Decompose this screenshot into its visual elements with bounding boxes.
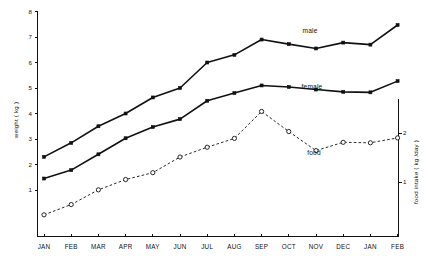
data-point (368, 141, 372, 145)
growth-and-food-intake-chart: 1 2 3 4 5 6 7 8 weight ( kg ) 2 1 food i… (0, 0, 425, 259)
data-point (232, 136, 236, 140)
data-point (342, 41, 345, 44)
x-tick-label-mar: MAR (91, 243, 106, 250)
data-point (70, 141, 73, 144)
x-tick-label-dec: DEC (336, 243, 350, 250)
x-tick-label-jan-1: JAN (38, 243, 51, 250)
data-point (151, 96, 154, 99)
data-point (179, 118, 182, 121)
series-label-male: male (302, 27, 317, 34)
data-point (287, 129, 291, 133)
data-point (205, 145, 209, 149)
data-point (69, 202, 73, 206)
data-point (43, 155, 46, 158)
data-point (341, 140, 345, 144)
data-point (369, 91, 372, 94)
x-tick-label-sep: SEP (255, 243, 268, 250)
data-point (206, 61, 209, 64)
data-point (43, 177, 46, 180)
data-point (97, 153, 100, 156)
data-point (124, 112, 127, 115)
x-tick-label-oct: OCT (282, 243, 296, 250)
x-tick-label-feb-1: FEB (65, 243, 78, 250)
x-tick-label-jul: JUL (201, 243, 213, 250)
data-point (178, 155, 182, 159)
y-tick-label-1: 1 (29, 186, 33, 193)
y-axis-title: weight ( kg ) (12, 102, 19, 139)
chart-background (0, 0, 425, 259)
y2-tick-label-2: 2 (403, 129, 407, 136)
y2-tick-label-1: 1 (403, 178, 407, 185)
data-point (369, 43, 372, 46)
x-tick-label-jan-2: JAN (364, 243, 377, 250)
data-point (396, 24, 399, 27)
data-point (124, 137, 127, 140)
data-point (233, 53, 236, 56)
data-point (70, 169, 73, 172)
data-point (96, 188, 100, 192)
y-tick-label-2: 2 (29, 161, 33, 168)
data-point (97, 125, 100, 128)
series-label-food: food (307, 149, 321, 156)
data-point (315, 47, 318, 50)
data-point (287, 85, 290, 88)
x-tick-label-feb-2: FEB (391, 243, 404, 250)
y-tick-label-6: 6 (29, 59, 33, 66)
series-label-female: female (302, 83, 323, 90)
data-point (260, 84, 263, 87)
data-point (124, 177, 128, 181)
data-point (233, 92, 236, 95)
data-point (42, 213, 46, 217)
data-point (396, 136, 400, 140)
chart-canvas: 1 2 3 4 5 6 7 8 weight ( kg ) 2 1 food i… (0, 0, 425, 259)
data-point (342, 90, 345, 93)
data-point (151, 171, 155, 175)
x-tick-label-aug: AUG (227, 243, 241, 250)
y-tick-label-5: 5 (29, 84, 33, 91)
data-point (179, 87, 182, 90)
x-tick-label-may: MAY (146, 243, 160, 250)
y-tick-label-8: 8 (29, 8, 33, 15)
x-tick-label-jun: JUN (174, 243, 187, 250)
y-tick-label-4: 4 (29, 110, 33, 117)
data-point (260, 38, 263, 41)
y-tick-label-7: 7 (29, 33, 33, 40)
data-point (260, 109, 264, 113)
data-point (206, 99, 209, 102)
data-point (287, 43, 290, 46)
data-point (396, 80, 399, 83)
x-tick-label-nov: NOV (309, 243, 324, 250)
x-tick-label-apr: APR (119, 243, 133, 250)
data-point (151, 126, 154, 129)
y-tick-label-3: 3 (29, 135, 33, 142)
y2-axis-title: food intake ( kg /day ) (412, 140, 419, 204)
